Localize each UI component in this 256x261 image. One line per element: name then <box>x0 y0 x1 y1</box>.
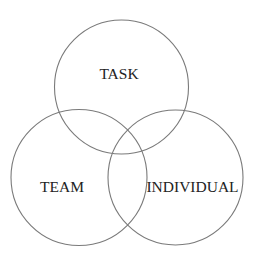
task-label: TASK <box>99 65 139 82</box>
venn-diagram: TASK TEAM INDIVIDUAL <box>0 0 256 261</box>
individual-label: INDIVIDUAL <box>146 178 238 195</box>
task-circle <box>55 20 189 154</box>
team-label: TEAM <box>40 178 84 195</box>
